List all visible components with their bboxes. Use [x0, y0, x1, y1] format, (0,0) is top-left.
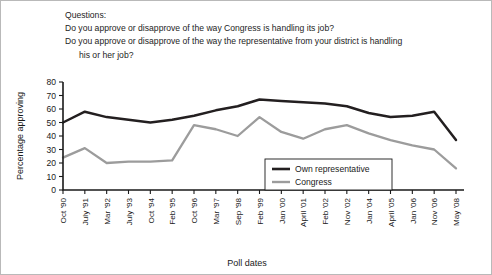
x-tick-label: May '08	[452, 198, 461, 227]
legend-label-own-representative: Own representative	[295, 164, 370, 174]
axis-frame	[63, 82, 464, 190]
x-tick-label: July '91	[81, 198, 90, 226]
x-tick-label: Sep '98	[234, 198, 243, 226]
x-tick-label: Nov '02	[343, 198, 352, 226]
y-tick-label: 60	[46, 104, 56, 114]
x-tick-label: Oct '90	[59, 198, 68, 224]
chart-figure: Questions: Do you approve or disapprove …	[0, 0, 492, 275]
x-axis-title: Poll dates	[227, 258, 267, 268]
x-tick-label: Jan '04	[365, 198, 374, 224]
y-tick-label: 50	[46, 118, 56, 128]
series-line-congress	[63, 117, 456, 168]
chart-svg: 01020304050607080 Oct '90July '91Mar '92…	[1, 1, 492, 275]
y-tick-label: 70	[46, 91, 56, 101]
legend-label-congress: Congress	[295, 177, 332, 187]
x-tick-label: Mar '97	[212, 198, 221, 225]
y-axis-ticks: 01020304050607080	[46, 77, 63, 195]
x-tick-label: April '01	[299, 198, 308, 227]
plot-area: 01020304050607080 Oct '90July '91Mar '92…	[1, 1, 492, 275]
x-tick-label: Jan '06	[409, 198, 418, 224]
y-tick-label: 80	[46, 77, 56, 87]
x-tick-label: Feb '99	[256, 198, 265, 225]
y-tick-label: 30	[46, 145, 56, 155]
series-line-own-representative	[63, 100, 456, 141]
y-tick-label: 40	[46, 131, 56, 141]
y-tick-label: 10	[46, 172, 56, 182]
x-tick-label: Nov '06	[430, 198, 439, 226]
legend: Own representative Congress	[265, 159, 392, 190]
y-axis-title: Percentage approving	[15, 92, 25, 180]
x-tick-label: Mar '92	[103, 198, 112, 225]
x-tick-label: Jan '00	[278, 198, 287, 224]
y-tick-label: 20	[46, 158, 56, 168]
x-tick-label: Feb '02	[321, 198, 330, 225]
x-tick-label: Oct '94	[147, 198, 156, 224]
x-tick-label: Feb '95	[168, 198, 177, 225]
x-axis-ticks: Oct '90July '91Mar '92July '93Oct '94Feb…	[59, 190, 461, 227]
x-tick-label: Oct '96	[190, 198, 199, 224]
x-tick-label: April '05	[387, 198, 396, 227]
x-tick-label: July '93	[125, 198, 134, 226]
y-tick-label: 0	[51, 185, 56, 195]
